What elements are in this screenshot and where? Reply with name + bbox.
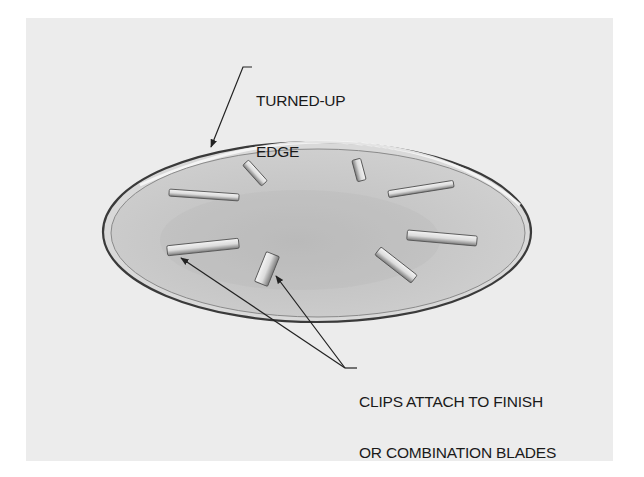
callout-turned-up-edge: TURNED-UP EDGE [256,58,345,194]
callout-clips-line-2: OR COMBINATION BLADES [359,444,556,461]
callout-clips-line-1: CLIPS ATTACH TO FINISH [359,393,556,410]
callout-edge-line-1: TURNED-UP [256,92,345,109]
callout-clips: CLIPS ATTACH TO FINISH OR COMBINATION BL… [359,359,556,477]
leader-turned-up-edge [211,67,252,147]
figure-canvas: TURNED-UP EDGE CLIPS ATTACH TO FINISH OR… [0,0,644,477]
callout-edge-line-2: EDGE [256,143,345,160]
